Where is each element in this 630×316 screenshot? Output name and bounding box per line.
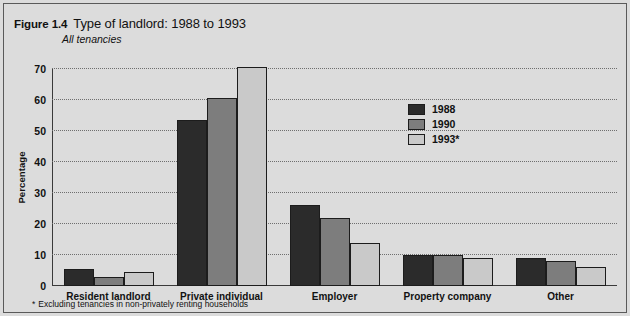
figure-number: Figure 1.4: [14, 18, 67, 30]
y-tick-label: 20: [34, 218, 46, 230]
legend-swatch-icon: [408, 104, 425, 115]
legend-swatch-icon: [408, 134, 425, 145]
legend: 198819901993*: [408, 103, 459, 145]
bar-1993-1: [237, 67, 267, 286]
legend-item-1990: 1990: [408, 118, 459, 130]
bar-1988-1: [177, 120, 207, 286]
y-tick-label: 70: [34, 63, 46, 75]
bar-group: Property company: [391, 69, 504, 286]
legend-label: 1988: [432, 103, 455, 115]
legend-label: 1993*: [432, 133, 459, 145]
y-tick-label: 10: [34, 249, 46, 261]
legend-swatch-icon: [408, 119, 425, 130]
bar-1988-4: [516, 258, 546, 286]
x-tick-label: Property company: [404, 291, 492, 302]
bar-1993-3: [463, 258, 493, 286]
y-tick-label: 50: [34, 125, 46, 137]
bar-1988-3: [403, 255, 433, 286]
bar-group: Other: [504, 69, 617, 286]
y-axis-title: Percentage: [14, 69, 28, 286]
figure-panel: Figure 1.4 Type of landlord: 1988 to 199…: [0, 0, 630, 316]
bar-1990-3: [433, 255, 463, 286]
bar-1990-2: [320, 218, 350, 286]
legend-label: 1990: [432, 118, 455, 130]
bar-1993-0: [124, 272, 154, 286]
bar-1990-4: [546, 261, 576, 286]
footnote: *Excluding tenancies in non-privately re…: [32, 299, 248, 309]
x-tick-label: Other: [547, 291, 574, 302]
bar-1990-0: [94, 277, 124, 286]
legend-item-1988: 1988: [408, 103, 459, 115]
footnote-text: Excluding tenancies in non-privately ren…: [38, 299, 248, 309]
bar-1993-2: [350, 243, 380, 286]
page-title: Type of landlord: 1988 to 1993: [73, 16, 246, 31]
figure-subtitle: All tenancies: [62, 33, 122, 45]
y-tick-label: 30: [34, 187, 46, 199]
plot-area: 010203040506070 Resident landlordPrivate…: [52, 69, 617, 286]
bar-1990-1: [207, 98, 237, 286]
legend-item-1993: 1993*: [408, 133, 459, 145]
figure-title-row: Figure 1.4 Type of landlord: 1988 to 199…: [14, 16, 246, 31]
y-tick-label: 40: [34, 156, 46, 168]
y-tick-label: 60: [34, 94, 46, 106]
bar-group: Employer: [278, 69, 391, 286]
y-axis-title-label: Percentage: [16, 151, 27, 203]
bar-1988-0: [64, 269, 94, 286]
bar-1993-4: [576, 267, 606, 286]
x-tick-label: Employer: [312, 291, 358, 302]
bar-group: Private individual: [165, 69, 278, 286]
bar-group: Resident landlord: [52, 69, 165, 286]
y-tick-label: 0: [40, 280, 46, 292]
bar-groups: Resident landlordPrivate individualEmplo…: [52, 69, 617, 286]
bar-1988-2: [290, 205, 320, 286]
footnote-marker: *: [32, 299, 35, 309]
